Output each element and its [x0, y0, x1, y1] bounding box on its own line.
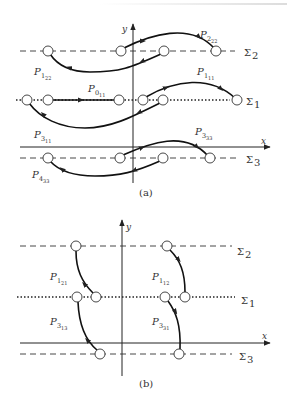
label-p2-22: P 2 22 [199, 29, 217, 44]
svg-text:33: 33 [206, 135, 212, 141]
svg-text:11: 11 [208, 75, 214, 81]
svg-text:11: 11 [99, 92, 105, 98]
svg-text:P: P [33, 66, 41, 77]
caption-b: (b) [139, 378, 153, 389]
label-p1-11: P 1 11 [196, 66, 214, 81]
label-p1-21: P 1 21 [49, 271, 67, 286]
label-p0-11: P 0 11 [87, 83, 105, 98]
label-p3-33: P 3 33 [194, 126, 212, 141]
path-p1-11 [146, 82, 235, 98]
caption-a: (a) [139, 187, 153, 198]
svg-text:Σ: Σ [246, 96, 253, 107]
label-p3-11: P 3 11 [33, 129, 51, 144]
sigma1-label: Σ 1 [246, 96, 260, 110]
path-p3-11 [29, 103, 160, 128]
svg-text:P: P [33, 129, 41, 140]
svg-text:31: 31 [163, 325, 169, 331]
nodes-a [22, 46, 242, 163]
panel-a: y x Σ 2 Σ 1 Σ 3 [16, 24, 270, 198]
svg-text:1: 1 [254, 99, 260, 110]
path-p4-33 [50, 161, 160, 176]
path-p1-21 [76, 251, 93, 293]
label-p1-22: P 1 22 [33, 66, 51, 81]
svg-text:Σ: Σ [239, 351, 246, 362]
x-axis-label: x [262, 331, 267, 341]
label-p1-12: P 1 12 [151, 271, 169, 286]
svg-text:3: 3 [247, 354, 253, 365]
svg-text:P: P [199, 29, 207, 40]
svg-text:21: 21 [61, 280, 67, 286]
path-p1-12 [170, 250, 185, 292]
y-axis-label: y [121, 24, 128, 34]
figure-canvas: y x Σ 2 Σ 1 Σ 3 [0, 0, 287, 399]
svg-text:P: P [31, 169, 39, 180]
panel-b: y x Σ 2 Σ 1 Σ 3 [17, 220, 270, 389]
svg-text:P: P [151, 316, 159, 327]
svg-text:P: P [194, 126, 202, 137]
svg-text:1: 1 [249, 298, 255, 309]
svg-text:13: 13 [61, 325, 67, 331]
svg-text:Σ: Σ [237, 246, 244, 257]
label-p3-13: P 3 13 [49, 316, 67, 331]
svg-text:P: P [49, 271, 57, 282]
svg-text:Σ: Σ [246, 154, 253, 165]
sigma1-label: Σ 1 [241, 295, 255, 309]
svg-text:P: P [196, 66, 204, 77]
svg-text:P: P [49, 316, 57, 327]
svg-text:2: 2 [252, 50, 258, 61]
path-p3-31 [168, 301, 180, 349]
svg-text:P: P [87, 83, 95, 94]
y-axis-label: y [125, 222, 132, 232]
label-p3-31: P 3 31 [151, 316, 169, 331]
svg-text:12: 12 [163, 280, 169, 286]
svg-text:33: 33 [43, 178, 49, 184]
x-axis-label: x [261, 136, 266, 146]
svg-text:11: 11 [45, 138, 51, 144]
sigma3-label: Σ 3 [239, 351, 253, 365]
sigma3-label: Σ 3 [246, 154, 260, 168]
svg-text:3: 3 [254, 157, 260, 168]
svg-text:Σ: Σ [244, 47, 251, 58]
svg-text:Σ: Σ [241, 295, 248, 306]
path-p1-22 [50, 54, 161, 72]
svg-text:2: 2 [245, 249, 251, 260]
svg-text:22: 22 [45, 75, 51, 81]
label-p4-33: P 4 33 [31, 169, 49, 184]
svg-text:P: P [151, 271, 159, 282]
sigma2-label: Σ 2 [237, 246, 251, 260]
sigma2-label: Σ 2 [244, 47, 258, 61]
svg-text:22: 22 [211, 38, 217, 44]
